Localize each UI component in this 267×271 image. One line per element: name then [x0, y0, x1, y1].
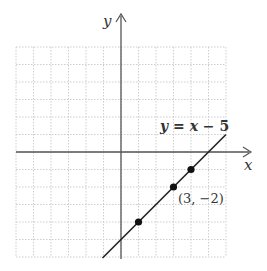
x-axis-label: x	[244, 156, 253, 174]
point-label: (3, −2)	[178, 191, 224, 206]
equation-rest: − 5	[198, 118, 229, 134]
y-axis-label: y	[102, 12, 112, 30]
equation-label: y = x − 5	[159, 118, 229, 134]
coordinate-plane: y x y = x − 5 (3, −2)	[0, 0, 267, 271]
equation-equals: =	[168, 118, 189, 134]
data-point	[187, 166, 194, 173]
data-point	[135, 218, 142, 225]
data-point	[170, 183, 177, 190]
